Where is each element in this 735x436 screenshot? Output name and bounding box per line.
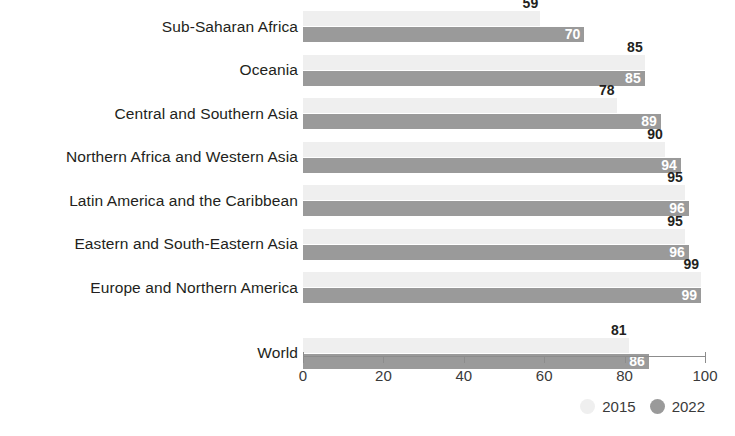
x-axis-tick	[625, 356, 626, 363]
category-label: Oceania	[240, 61, 298, 79]
bar-group: Oceania8585	[0, 52, 735, 89]
bar-2015[interactable]	[303, 229, 685, 244]
bar-2015[interactable]	[303, 142, 665, 157]
category-label: Central and Southern Asia	[115, 105, 298, 123]
bar-pair: 9596	[303, 182, 705, 219]
x-axis-tick-label: 0	[299, 367, 307, 384]
x-axis-line	[303, 356, 705, 357]
legend-swatch-2022-icon	[650, 399, 665, 414]
bar-group: Europe and Northern America9999	[0, 269, 735, 306]
legend-item-2015[interactable]: 2015	[580, 398, 635, 415]
value-label-2015: 99	[683, 256, 701, 272]
bar-pair: 5970	[303, 8, 705, 45]
bar-pair: 8585	[303, 52, 705, 89]
category-label: Latin America and the Caribbean	[69, 192, 298, 210]
category-label: Europe and Northern America	[90, 279, 298, 297]
value-label-2022: 70	[565, 27, 585, 42]
bar-2015[interactable]	[303, 55, 645, 70]
x-axis-end-cap	[705, 352, 706, 357]
grouped-bar-chart: Sub-Saharan Africa5970Oceania8585Central…	[0, 0, 735, 436]
bar-pair: 7889	[303, 95, 705, 132]
bar-2015[interactable]	[303, 185, 685, 200]
x-axis-tick-label: 40	[455, 367, 472, 384]
value-label-2022: 85	[625, 71, 645, 86]
legend-items: 2015 2022	[580, 398, 705, 415]
x-axis-tick-label: 60	[536, 367, 553, 384]
bar-2015[interactable]	[303, 11, 540, 26]
bar-group: Latin America and the Caribbean9596	[0, 182, 735, 219]
bar-pair: 9094	[303, 139, 705, 176]
x-axis-tick	[705, 356, 706, 363]
x-axis-tick-label: 100	[692, 367, 717, 384]
bar-2022[interactable]	[303, 158, 681, 173]
bar-2015[interactable]	[303, 338, 629, 353]
bar-group: Northern Africa and Western Asia9094	[0, 139, 735, 176]
x-axis-tick	[383, 356, 384, 363]
plot-area: Sub-Saharan Africa5970Oceania8585Central…	[0, 0, 735, 360]
bar-2015[interactable]	[303, 98, 617, 113]
bar-pair: 9999	[303, 269, 705, 306]
x-axis-tick-label: 20	[375, 367, 392, 384]
bar-2015[interactable]	[303, 272, 701, 287]
legend-swatch-2015-icon	[580, 399, 595, 414]
bar-group: Sub-Saharan Africa5970	[0, 8, 735, 45]
value-label-2015: 95	[667, 169, 685, 185]
bar-2022[interactable]	[303, 288, 701, 303]
bar-2022[interactable]	[303, 201, 689, 216]
category-label: Northern Africa and Western Asia	[66, 148, 298, 166]
bar-2022[interactable]	[303, 71, 645, 86]
bar-2022[interactable]	[303, 114, 661, 129]
category-label: World	[257, 344, 298, 362]
category-label: Eastern and South-Eastern Asia	[74, 235, 298, 253]
bar-2022[interactable]	[303, 27, 584, 42]
category-label: Sub-Saharan Africa	[162, 18, 298, 36]
legend-item-2022[interactable]: 2022	[650, 398, 705, 415]
legend-label-2022: 2022	[672, 398, 705, 415]
x-axis-tick-label: 80	[616, 367, 633, 384]
value-label-2015: 81	[611, 322, 629, 338]
x-axis-tick	[544, 356, 545, 363]
x-axis-end-cap	[303, 352, 304, 357]
bar-group: Eastern and South-Eastern Asia9596	[0, 226, 735, 263]
value-label-2015: 59	[523, 0, 541, 11]
x-axis-tick	[303, 356, 304, 363]
bar-2022[interactable]	[303, 245, 689, 260]
value-label-2022: 99	[681, 288, 701, 303]
x-axis: 020406080100	[303, 356, 705, 396]
bar-group: Central and Southern Asia7889	[0, 95, 735, 132]
x-axis-tick	[464, 356, 465, 363]
chart-legend: 2015 2022	[0, 398, 735, 426]
value-label-2015: 95	[667, 213, 685, 229]
value-label-2015: 90	[647, 126, 665, 142]
bar-pair: 9596	[303, 226, 705, 263]
value-label-2015: 85	[627, 39, 645, 55]
legend-label-2015: 2015	[602, 398, 635, 415]
value-label-2015: 78	[599, 82, 617, 98]
